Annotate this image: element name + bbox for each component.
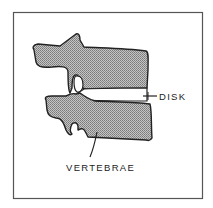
upper-vertebra [33, 34, 148, 93]
neural-foramen [74, 76, 83, 92]
vertebrae-label: VERTEBRAE [66, 162, 135, 173]
disk-label: DISK [159, 91, 186, 102]
vertebrae-diagram: DISK VERTEBRAE [0, 0, 213, 208]
